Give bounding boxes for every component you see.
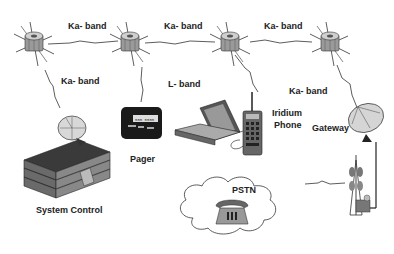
crosslink-label: Ka- band <box>264 22 303 31</box>
downlink-label: Ka- band <box>61 77 100 86</box>
building-icon <box>24 140 110 198</box>
satellite-phone-icon <box>243 92 262 155</box>
iridium-phone-label: Phone <box>274 121 302 130</box>
telephone-icon <box>216 200 248 224</box>
laptop-icon <box>175 100 249 149</box>
pager-icon: 555 5555 <box>121 107 162 139</box>
pager-label: Pager <box>130 155 155 164</box>
cloud-icon <box>180 177 275 234</box>
cell-tower-icon <box>349 155 370 215</box>
gateway-label: Gateway <box>312 124 349 133</box>
satellite-icon <box>310 22 350 66</box>
satellite-icon <box>110 22 150 66</box>
svg-text:555 5555: 555 5555 <box>135 118 155 122</box>
crosslink-label: Ka- band <box>164 22 203 31</box>
satellite-icon <box>210 22 250 66</box>
dish-antenna-icon <box>344 99 387 208</box>
downlink-label: L- band <box>168 80 201 89</box>
crosslinks <box>48 40 312 44</box>
pstn-label: PSTN <box>232 186 256 195</box>
pstn-link <box>305 181 345 184</box>
downlink-label: Ka- band <box>289 87 328 96</box>
system-control-label: System Control <box>36 206 103 215</box>
dish-antenna-icon <box>58 116 86 146</box>
iridium-phone-label: Iridium <box>272 109 302 118</box>
crosslink-label: Ka- band <box>68 22 107 31</box>
iridium-network-diagram: 555 5555 <box>0 0 394 254</box>
